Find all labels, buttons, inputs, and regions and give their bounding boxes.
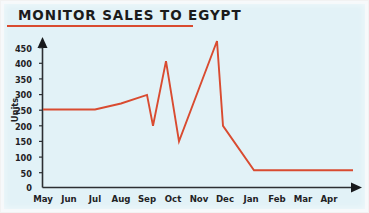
y-tick-label-450: 450 [8,44,32,54]
line-chart-plot [1,1,369,213]
x-axis-arrow-icon [351,183,362,193]
y-tick-label-150: 150 [8,137,32,147]
y-tick-label-50: 50 [8,169,32,179]
y-axis-arrow-icon [38,37,48,48]
title-underline-rule [7,25,193,27]
y-tick-label-0: 0 [8,183,32,193]
chart-title: MONITOR SALES TO EGYPT [18,7,242,23]
y-tick-label-350: 350 [8,75,32,85]
chart-card: MONITOR SALES TO EGYPT 450 400 350 300 2… [0,0,369,213]
y-axis-title: Units [10,88,20,132]
x-tick-label-apr: Apr [314,194,344,204]
y-tick-label-400: 400 [8,59,32,69]
sales-data-line [43,41,353,170]
y-tick-label-100: 100 [8,153,32,163]
